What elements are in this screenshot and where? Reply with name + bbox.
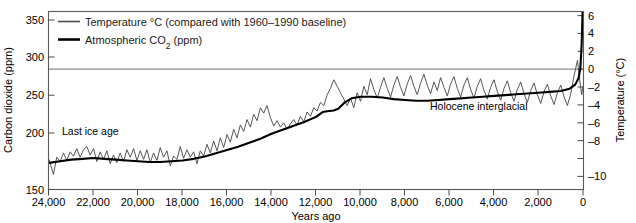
xtick-label-16000: 16,000 <box>210 196 244 208</box>
y2tick-label-neg4: –4 <box>588 99 600 111</box>
chart-legend: Temperature °C (compared with 1960–1990 … <box>58 16 346 51</box>
y-axis-left-title: Carbon dioxide (ppm) <box>2 47 14 153</box>
y2tick-label-0: 0 <box>588 63 594 75</box>
y-axis-right-title: Temperature (°C) <box>614 58 626 142</box>
xtick-label-24000: 24,000 <box>32 196 66 208</box>
y2tick-label-neg2: –2 <box>588 81 600 93</box>
xtick-label-18000: 18,000 <box>165 196 199 208</box>
y2tick-label-2: 2 <box>588 45 594 57</box>
x-axis-title: Years ago <box>291 210 340 222</box>
ytick-label-250: 250 <box>26 89 44 101</box>
xtick-label-6000: 6,000 <box>435 196 463 208</box>
climate-chart-figure: 350 300 250 200 150 Carbon dioxide (ppm)… <box>0 0 636 223</box>
xtick-label-0: 0 <box>580 196 586 208</box>
xtick-label-22000: 22,000 <box>76 196 110 208</box>
xtick-label-10000: 10,000 <box>343 196 377 208</box>
xtick-label-14000: 14,000 <box>254 196 288 208</box>
y2tick-label-4: 4 <box>588 27 594 39</box>
annotation-holocene-interglacial: Holocene interglacial <box>430 100 527 112</box>
y-axis-left-ticks <box>49 20 55 190</box>
annotation-last-ice-age: Last ice age <box>62 125 119 137</box>
y2tick-label-neg8: –8 <box>588 135 600 147</box>
y-axis-left-labels: 350 300 250 200 150 <box>26 14 44 196</box>
y2tick-label-neg6: –6 <box>588 117 600 129</box>
x-axis-labels: 24,000 22,000 20,000 18,000 16,000 14,00… <box>32 196 586 208</box>
xtick-label-8000: 8,000 <box>391 196 419 208</box>
legend-label-co2-prefix: Atmospheric CO <box>85 34 166 46</box>
y-axis-right-labels: 6 4 2 0 –2 –4 –6 –8 –10 <box>588 10 606 183</box>
legend-label-temperature: Temperature °C (compared with 1960–1990 … <box>85 16 346 28</box>
xtick-label-12000: 12,000 <box>299 196 333 208</box>
ytick-label-150: 150 <box>26 184 44 196</box>
ytick-label-300: 300 <box>26 51 44 63</box>
legend-label-co2-suffix: (ppm) <box>170 34 202 46</box>
y2tick-label-6: 6 <box>588 10 594 22</box>
xtick-label-20000: 20,000 <box>121 196 155 208</box>
ytick-label-200: 200 <box>26 127 44 139</box>
legend-label-co2: Atmospheric CO2 (ppm) <box>85 34 202 51</box>
ytick-label-350: 350 <box>26 14 44 26</box>
x-axis-ticks <box>49 190 584 196</box>
xtick-label-4000: 4,000 <box>480 196 508 208</box>
y2tick-label-neg10: –10 <box>588 170 606 182</box>
xtick-label-2000: 2,000 <box>524 196 552 208</box>
paleoclimate-co2-temperature-chart: 350 300 250 200 150 Carbon dioxide (ppm)… <box>0 0 636 223</box>
